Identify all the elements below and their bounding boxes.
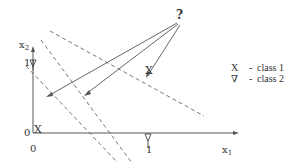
- y-axis-arrow-icon: [31, 46, 35, 52]
- legend-label-class2: class 2: [257, 73, 284, 84]
- x-tick-one-label: 1: [146, 145, 152, 155]
- origin-x-label: 0: [30, 144, 36, 154]
- decision-boundary-1: [50, 31, 204, 116]
- y-axis-label-sub: 2: [25, 44, 29, 52]
- origin-y-label: 0: [24, 128, 30, 138]
- legend-label-class1: class 1: [257, 62, 284, 73]
- legend-item-class2: ∇ - class 2: [231, 73, 284, 84]
- class1-symbol-icon: X: [231, 62, 249, 73]
- x-axis-label: x1: [222, 145, 232, 157]
- arrowhead-1-icon: [46, 92, 53, 97]
- y-tick-one-label: 1: [24, 58, 30, 68]
- decision-boundary-2: [41, 40, 132, 163]
- query-point-label: ?: [176, 9, 183, 21]
- legend-dash: -: [249, 73, 257, 84]
- legend-dash: -: [249, 62, 257, 73]
- class1-point-origin: X: [34, 124, 42, 135]
- y-axis-label: x2: [19, 40, 29, 52]
- legend: X - class 1 ∇ - class 2: [231, 62, 284, 84]
- x-axis-label-sub: 1: [228, 149, 232, 157]
- class1-point-upper: X: [145, 65, 153, 76]
- class2-symbol-icon: ∇: [231, 73, 249, 84]
- x-axis-arrow-icon: [233, 131, 239, 135]
- legend-item-class1: X - class 1: [231, 62, 284, 73]
